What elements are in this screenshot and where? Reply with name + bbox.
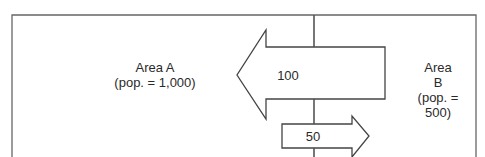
flow-arrow-left-100 bbox=[237, 30, 385, 119]
area-b-name-line1: Area bbox=[408, 60, 468, 75]
area-a-label: Area A (pop. = 1,000) bbox=[80, 60, 230, 90]
area-b-name-line2: B bbox=[408, 75, 468, 90]
area-a-name: Area A bbox=[80, 60, 230, 75]
area-b-population-line2: 500) bbox=[408, 105, 468, 120]
flow-label-50: 50 bbox=[293, 129, 333, 144]
area-b-label: Area B (pop. = 500) bbox=[408, 60, 468, 120]
flow-label-100: 100 bbox=[268, 68, 308, 83]
area-b-population-line1: (pop. = bbox=[408, 90, 468, 105]
area-a-population: (pop. = 1,000) bbox=[80, 75, 230, 90]
